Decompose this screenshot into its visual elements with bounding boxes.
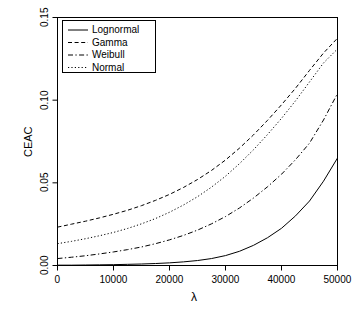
series-line-normal	[58, 49, 338, 244]
x-tick-label: 20000	[156, 274, 184, 285]
x-tick-label: 10000	[100, 274, 128, 285]
legend-label-normal: Normal	[92, 62, 124, 73]
x-tick-label: 0	[55, 274, 61, 285]
series-line-lognormal	[58, 158, 338, 265]
legend-label-lognormal: Lognormal	[92, 24, 139, 35]
y-tick-label: 0.15	[39, 8, 50, 27]
x-tick-label: 40000	[268, 274, 296, 285]
y-axis-ticks	[53, 18, 58, 266]
legend-label-weibull: Weibull	[92, 49, 125, 60]
x-axis-title: λ	[191, 290, 197, 304]
x-tick-label: 30000	[212, 274, 240, 285]
series-line-weibull	[58, 94, 338, 259]
x-tick-label: 50000	[324, 274, 352, 285]
y-tick-label: 0.05	[39, 173, 50, 192]
y-axis-title: CEAC	[22, 126, 34, 157]
plot-canvas	[0, 0, 353, 318]
x-axis-ticks	[58, 266, 338, 271]
ceac-chart-figure: 01000020000300004000050000 0.000.050.100…	[0, 0, 353, 318]
legend-label-gamma: Gamma	[92, 37, 128, 48]
y-tick-label: 0.00	[39, 256, 50, 275]
y-tick-label: 0.10	[39, 90, 50, 109]
